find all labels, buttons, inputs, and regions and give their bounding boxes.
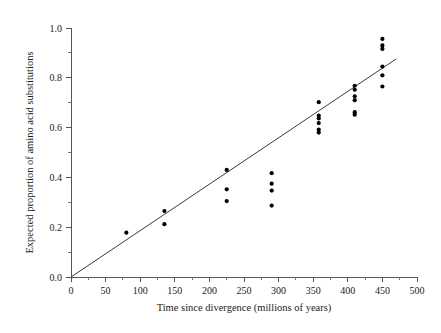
data-point — [270, 188, 274, 192]
y-axis-title: Expected proportion of amino acid substi… — [24, 51, 35, 253]
data-point — [270, 171, 274, 175]
axes-group — [71, 28, 417, 277]
y-axis-ticks: 0.00.20.40.60.81.0 — [50, 23, 72, 283]
data-point — [380, 84, 384, 88]
data-point — [353, 88, 357, 92]
data-point — [353, 113, 357, 117]
data-point — [225, 199, 229, 203]
data-point — [380, 73, 384, 77]
x-tick-label: 350 — [306, 285, 321, 296]
data-point — [380, 37, 384, 41]
data-point — [317, 116, 321, 120]
chart-canvas: 0501001502002503003504004505000.00.20.40… — [0, 0, 441, 333]
y-tick-label: 0.8 — [50, 72, 63, 83]
x-tick-label: 400 — [340, 285, 355, 296]
y-tick-label: 0.6 — [50, 122, 63, 133]
y-tick-label: 0.0 — [50, 272, 63, 283]
x-tick-label: 100 — [133, 285, 148, 296]
data-point — [162, 209, 166, 213]
x-tick-label: 250 — [237, 285, 252, 296]
scatter-plot-figure: 0501001502002503003504004505000.00.20.40… — [0, 0, 441, 333]
data-point — [317, 121, 321, 125]
data-points-group — [124, 37, 384, 235]
x-tick-label: 50 — [101, 285, 111, 296]
data-point — [353, 94, 357, 98]
x-tick-label: 200 — [202, 285, 217, 296]
x-axis-ticks: 050100150200250300350400450500 — [69, 277, 425, 296]
data-point — [353, 98, 357, 102]
axis-titles: Time since divergence (millions of years… — [24, 51, 332, 314]
data-point — [270, 182, 274, 186]
data-point — [380, 47, 384, 51]
data-point — [270, 203, 274, 207]
x-tick-label: 450 — [375, 285, 390, 296]
y-tick-label: 1.0 — [50, 23, 63, 34]
data-point — [353, 84, 357, 88]
data-point — [380, 64, 384, 68]
x-tick-label: 150 — [167, 285, 182, 296]
data-point — [162, 222, 166, 226]
x-tick-label: 500 — [410, 285, 425, 296]
y-tick-label: 0.4 — [50, 172, 63, 183]
regression-line — [71, 59, 396, 277]
x-tick-label: 0 — [69, 285, 74, 296]
data-point — [225, 187, 229, 191]
x-axis-title: Time since divergence (millions of years… — [157, 302, 332, 314]
data-point — [317, 100, 321, 104]
x-tick-label: 300 — [271, 285, 286, 296]
data-point — [317, 130, 321, 134]
data-point — [124, 231, 128, 235]
data-point — [225, 168, 229, 172]
y-tick-label: 0.2 — [50, 222, 63, 233]
